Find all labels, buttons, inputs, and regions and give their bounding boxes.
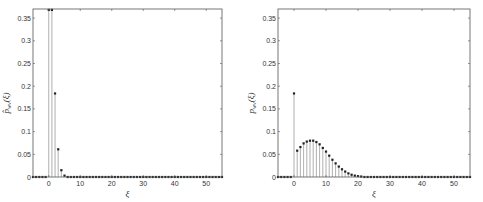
stems [32, 9, 223, 178]
data-point [293, 92, 295, 94]
y-tick-label: 0.1 [21, 128, 31, 135]
y-tick-label: 0.15 [17, 105, 31, 112]
y-tick-label: 0.35 [262, 15, 276, 22]
y-tick-label: 0.05 [17, 151, 31, 158]
data-point [312, 140, 314, 142]
left-stem-plot: 0102030405000.050.10.150.20.250.30.35ξp̂… [1, 9, 223, 199]
data-point [54, 92, 56, 94]
y-tick-label: 0.2 [21, 83, 31, 90]
data-point [299, 146, 301, 148]
y-tick-label: 0.25 [17, 60, 31, 67]
axes-frame [33, 9, 222, 177]
data-point [322, 147, 324, 149]
data-point [315, 141, 317, 143]
y-axis-label: p̂wv(ξ) [1, 92, 12, 114]
data-point [354, 175, 356, 177]
x-tick-label: 20 [108, 180, 116, 187]
data-point [309, 140, 311, 142]
x-axis-label: ξ [372, 189, 376, 199]
y-tick-label: 0.05 [262, 151, 276, 158]
right-stem-plot: 0102030405000.050.10.150.20.250.30.35ξpw… [246, 9, 471, 199]
x-tick-label: 10 [76, 180, 84, 187]
x-tick-label: 0 [292, 180, 296, 187]
y-axis-label: pwv(ξ) [246, 92, 257, 114]
data-point [331, 159, 333, 161]
data-point [344, 170, 346, 172]
y-tick-label: 0.25 [262, 60, 276, 67]
y-tick-label: 0.15 [262, 105, 276, 112]
data-point [60, 169, 62, 171]
x-tick-label: 50 [450, 180, 458, 187]
y-tick-label: 0.3 [266, 37, 276, 44]
y-tick-label: 0.35 [17, 15, 31, 22]
data-point [335, 162, 337, 164]
data-point [303, 142, 305, 144]
figure: 0102030405000.050.10.150.20.250.30.35ξp̂… [0, 0, 483, 202]
data-point [351, 174, 353, 176]
x-tick-label: 20 [354, 180, 362, 187]
x-axis-label: ξ [126, 189, 130, 199]
data-point [328, 155, 330, 157]
y-tick-label: 0.3 [21, 37, 31, 44]
data-point [296, 150, 298, 152]
data-point [319, 143, 321, 145]
data-point [347, 172, 349, 174]
data-point [63, 175, 65, 177]
x-tick-label: 30 [386, 180, 394, 187]
x-tick-label: 30 [139, 180, 147, 187]
x-tick-label: 40 [171, 180, 179, 187]
x-tick-label: 0 [47, 180, 51, 187]
y-tick-label: 0 [272, 174, 276, 181]
data-point [325, 150, 327, 152]
data-point [341, 168, 343, 170]
stems [277, 92, 471, 178]
data-point [306, 140, 308, 142]
x-tick-label: 10 [322, 180, 330, 187]
y-tick-label: 0.2 [266, 83, 276, 90]
x-tick-label: 50 [202, 180, 210, 187]
x-tick-label: 40 [418, 180, 426, 187]
data-point [57, 148, 59, 150]
y-tick-label: 0 [27, 174, 31, 181]
data-point [338, 165, 340, 167]
y-tick-label: 0.1 [266, 128, 276, 135]
